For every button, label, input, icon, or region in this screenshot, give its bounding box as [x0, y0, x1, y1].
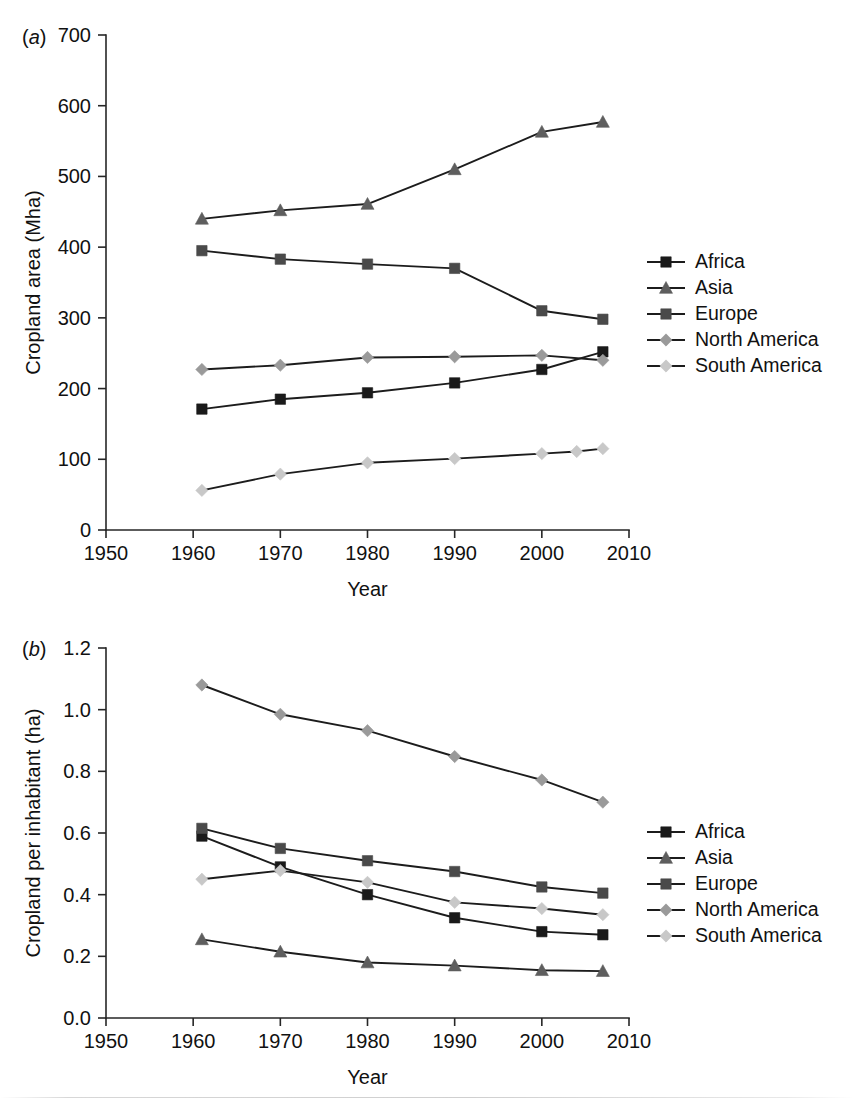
- data-point-marker: [196, 484, 208, 496]
- data-point-marker: [597, 443, 609, 455]
- page-divider-rule: [0, 1097, 854, 1098]
- x-axis-tick-label: 2010: [607, 542, 652, 564]
- series-asia: [195, 933, 609, 977]
- legend-label: Europe: [695, 872, 758, 894]
- legend-item-europe[interactable]: Europe: [647, 302, 758, 324]
- legend-item-asia[interactable]: Asia: [647, 276, 733, 298]
- x-axis-tick-label: 2000: [520, 1030, 565, 1052]
- y-axis-tick-label: 200: [58, 378, 91, 400]
- cropland-area-chart: 0100200300400500600700195019601970198019…: [0, 0, 854, 610]
- legend-item-africa[interactable]: Africa: [647, 250, 745, 272]
- data-point-marker: [598, 930, 608, 940]
- x-axis-tick-label: 1990: [432, 542, 477, 564]
- data-point-marker: [197, 823, 207, 833]
- x-axis-tick-label: 2010: [607, 1030, 652, 1052]
- series-europe: [197, 245, 608, 324]
- x-axis-tick-label: 1960: [171, 542, 216, 564]
- legend-label: Africa: [695, 820, 745, 842]
- legend-item-south-america[interactable]: South America: [647, 924, 822, 946]
- data-point-marker: [449, 452, 461, 464]
- legend-marker-diamond: [660, 904, 672, 916]
- data-point-marker: [361, 876, 373, 888]
- y-axis-tick-label: 0.4: [63, 884, 91, 906]
- legend-label: South America: [695, 924, 822, 946]
- legend-label: Asia: [695, 846, 733, 868]
- x-axis-title: Year: [347, 578, 388, 600]
- legend-marker-square: [661, 879, 671, 889]
- series-asia: [195, 115, 609, 224]
- chart-panel-b: 0.00.20.40.60.81.01.21950196019701980199…: [0, 608, 854, 1108]
- y-axis-tick-label: 1.0: [63, 699, 91, 721]
- y-axis-tick-label: 300: [58, 307, 91, 329]
- data-point-marker: [362, 856, 372, 866]
- y-axis-tick-label: 500: [58, 165, 91, 187]
- panel-label: (b): [22, 638, 46, 660]
- legend-marker-diamond: [660, 360, 672, 372]
- x-axis-tick-label: 1970: [258, 542, 303, 564]
- legend-label: Asia: [695, 276, 733, 298]
- data-point-marker: [598, 888, 608, 898]
- data-point-marker: [449, 263, 459, 273]
- legend-item-africa[interactable]: Africa: [647, 820, 745, 842]
- data-point-marker: [197, 404, 207, 414]
- x-axis-tick-label: 2000: [520, 542, 565, 564]
- figure-cropland-trends: 0100200300400500600700195019601970198019…: [0, 0, 854, 1116]
- legend: AfricaAsiaEuropeNorth AmericaSouth Ameri…: [647, 250, 822, 376]
- series-europe: [197, 823, 608, 898]
- data-point-marker: [596, 115, 609, 127]
- axes-group: 0.00.20.40.60.81.01.21950196019701980199…: [22, 637, 651, 1088]
- legend-item-europe[interactable]: Europe: [647, 872, 758, 894]
- legend-marker-square: [661, 827, 671, 837]
- panel-label: (a): [22, 26, 46, 48]
- data-point-marker: [449, 896, 461, 908]
- legend-label: South America: [695, 354, 822, 376]
- data-point-marker: [274, 708, 286, 720]
- y-axis-title: Cropland area (Mha): [22, 190, 44, 375]
- data-point-marker: [536, 902, 548, 914]
- data-point-marker: [536, 447, 548, 459]
- data-point-marker: [274, 359, 286, 371]
- data-point-marker: [598, 314, 608, 324]
- x-axis-tick-label: 1950: [84, 542, 129, 564]
- legend-marker-square: [661, 257, 671, 267]
- data-point-marker: [571, 445, 583, 457]
- series-group: [195, 679, 609, 977]
- y-axis-tick-label: 0: [80, 519, 91, 541]
- data-point-marker: [448, 163, 461, 175]
- y-axis-tick-label: 700: [58, 24, 91, 46]
- data-point-marker: [361, 351, 373, 363]
- x-axis-tick-label: 1990: [432, 1030, 477, 1052]
- chart-panel-a: 0100200300400500600700195019601970198019…: [0, 0, 854, 610]
- data-point-marker: [449, 913, 459, 923]
- data-point-marker: [449, 750, 461, 762]
- data-point-marker: [537, 926, 547, 936]
- x-axis-title: Year: [347, 1066, 388, 1088]
- data-point-marker: [196, 679, 208, 691]
- legend-marker-diamond: [660, 334, 672, 346]
- legend-item-asia[interactable]: Asia: [647, 846, 733, 868]
- x-axis-tick-label: 1970: [258, 1030, 303, 1052]
- legend: AfricaAsiaEuropeNorth AmericaSouth Ameri…: [647, 820, 822, 946]
- x-axis-tick-label: 1960: [171, 1030, 216, 1052]
- legend-label: North America: [695, 328, 819, 350]
- cropland-per-inhabitant-chart: 0.00.20.40.60.81.01.21950196019701980199…: [0, 608, 854, 1108]
- data-point-marker: [195, 933, 208, 945]
- data-point-marker: [362, 388, 372, 398]
- legend-item-north-america[interactable]: North America: [647, 898, 819, 920]
- legend-marker-square: [661, 309, 671, 319]
- legend-label: North America: [695, 898, 819, 920]
- data-point-marker: [597, 909, 609, 921]
- data-point-marker: [536, 349, 548, 361]
- legend-item-south-america[interactable]: South America: [647, 354, 822, 376]
- y-axis-tick-label: 0.6: [63, 822, 91, 844]
- data-point-marker: [537, 306, 547, 316]
- y-axis-tick-label: 0.0: [63, 1007, 91, 1029]
- series-north-america: [196, 679, 609, 808]
- data-point-marker: [275, 394, 285, 404]
- legend-marker-diamond: [660, 930, 672, 942]
- data-point-marker: [537, 364, 547, 374]
- legend-item-north-america[interactable]: North America: [647, 328, 819, 350]
- data-point-marker: [449, 378, 459, 388]
- data-point-marker: [196, 873, 208, 885]
- legend-label: Europe: [695, 302, 758, 324]
